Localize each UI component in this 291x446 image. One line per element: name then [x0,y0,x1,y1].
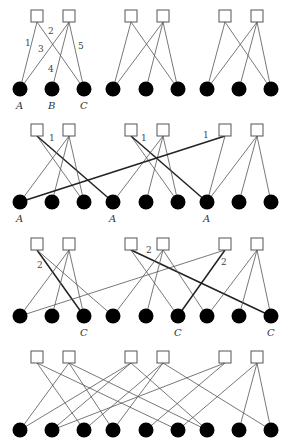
square-vertex [125,124,137,136]
square-vertex [219,124,231,136]
square-vertex [157,238,169,250]
square-vertex [125,238,137,250]
vertex-label: A [15,213,23,224]
circle-vertex [106,195,121,210]
edge-weight-label: 4 [48,64,54,74]
edge-line [52,136,69,202]
edge-line [239,136,257,202]
circle-vertex [13,309,28,324]
square-vertex [31,124,43,136]
edge-line [131,363,207,430]
vertex-label: C [267,327,275,338]
edge-weight-label: 3 [38,44,44,54]
circle-vertex [77,423,92,438]
circle-vertex [232,423,247,438]
circle-vertex [264,82,279,97]
circle-vertex [13,423,28,438]
edge-line [239,22,257,89]
vertex-label: A [108,213,116,224]
square-vertex [251,238,263,250]
edge-weight-label: 1 [25,38,31,48]
square-vertex [251,124,263,136]
circle-vertex [45,195,60,210]
circle-vertex [45,309,60,324]
circle-vertex [45,423,60,438]
circle-vertex [171,423,186,438]
edge-line [257,136,271,202]
edge-line [207,22,225,89]
vertex-label: C [80,100,88,111]
circle-vertex [200,82,215,97]
edge-line [146,136,163,202]
edge-line [207,136,225,202]
square-vertex [251,351,263,363]
edge-weight-label: 1 [49,133,55,143]
circle-vertex [13,82,28,97]
nodes-layer [13,10,279,438]
vertex-label: A [202,213,210,224]
vertex-label: C [174,327,182,338]
vertex-label: A [15,100,23,111]
edge-line [37,363,178,430]
edge-weight-label: 1 [141,133,147,143]
edge-line [52,250,69,316]
circle-vertex [106,309,121,324]
edge-line [257,363,271,430]
circle-vertex [232,309,247,324]
edge-weight-label: 2 [221,257,227,267]
edge-line [113,22,131,89]
circle-vertex [171,309,186,324]
square-vertex [125,10,137,22]
square-vertex [219,351,231,363]
circle-vertex [106,423,121,438]
circle-vertex [171,195,186,210]
vertex-label: B [47,100,55,111]
edge-weight-label: 5 [78,41,84,51]
circle-vertex [200,423,215,438]
circle-vertex [45,82,60,97]
edge-line [239,250,257,316]
square-vertex [31,351,43,363]
circle-vertex [77,309,92,324]
edge-line [37,250,113,316]
circle-vertex [264,195,279,210]
edge-line [20,136,225,202]
circle-vertex [106,82,121,97]
circle-vertex [232,82,247,97]
square-vertex [125,351,137,363]
circle-vertex [77,195,92,210]
circle-vertex [139,423,154,438]
circle-vertex [171,82,186,97]
edge-line [146,22,163,89]
circle-vertex [139,195,154,210]
edge-line [257,250,271,316]
square-vertex [31,238,43,250]
square-vertex [157,10,169,22]
edge-weight-label: 2 [37,260,43,270]
square-vertex [157,124,169,136]
bipartite-gadget-diagram: 12345ABC111AAA222CCC [0,0,291,446]
edge-line [52,363,131,430]
edge-line [207,136,257,202]
square-vertex [31,10,43,22]
circle-vertex [77,82,92,97]
circle-vertex [264,309,279,324]
labels-layer: 12345ABC111AAA222CCC [15,26,275,338]
circle-vertex [232,195,247,210]
vertex-label: C [80,327,88,338]
circle-vertex [13,195,28,210]
edge-line [84,363,163,430]
circle-vertex [200,309,215,324]
square-vertex [157,351,169,363]
edge-weight-label: 2 [146,245,152,255]
square-vertex [63,351,75,363]
square-vertex [251,10,263,22]
edge-line [52,22,69,89]
circle-vertex [264,423,279,438]
square-vertex [219,10,231,22]
square-vertex [219,238,231,250]
square-vertex [63,124,75,136]
edge-line [52,363,225,430]
square-vertex [63,10,75,22]
edge-line [20,250,225,316]
